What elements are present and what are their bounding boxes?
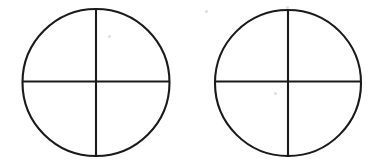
figure-canvas [0, 0, 373, 168]
left-circle-group [23, 9, 170, 156]
right-circle-group [215, 10, 361, 156]
quartered-circles-svg [0, 0, 373, 168]
